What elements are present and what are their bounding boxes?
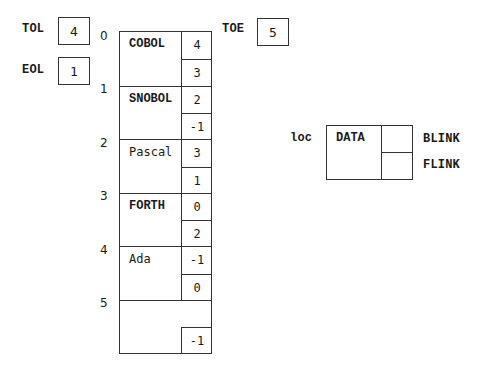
- row-flink: -1: [181, 113, 212, 140]
- row-flink: 3: [181, 59, 212, 86]
- toe-value: 5: [269, 25, 277, 40]
- toe-value-box: 5: [257, 18, 289, 46]
- linked-list-table: COBOL 4 3 SNOBOL 2 -1 Pascal 3 1 FORTH 0…: [119, 31, 212, 354]
- node-legend-box: DATA: [326, 125, 413, 180]
- blink-label: BLINK: [423, 132, 460, 146]
- tol-value: 4: [70, 24, 78, 39]
- row-blink: 2: [181, 87, 212, 114]
- row-index-4: 4: [100, 243, 108, 257]
- eol-value-box: 1: [58, 57, 90, 85]
- row-data: SNOBOL: [129, 92, 172, 106]
- row-flink: 1: [181, 167, 212, 194]
- row-index-3: 3: [100, 189, 108, 203]
- row-data: COBOL: [129, 37, 165, 51]
- eol-label: EOL: [22, 63, 44, 77]
- row-index-2: 2: [100, 136, 108, 150]
- row-index-1: 1: [100, 82, 108, 96]
- toe-label: TOE: [222, 22, 244, 36]
- row-blink: 3: [181, 140, 212, 167]
- row-data: Pascal: [129, 145, 172, 159]
- node-data-label: DATA: [336, 131, 365, 145]
- row-blink: -1: [181, 247, 212, 274]
- table-row: FORTH 0 2: [120, 193, 211, 247]
- row-blink: 0: [181, 194, 212, 221]
- row-index-0: 0: [100, 29, 108, 43]
- tol-label: TOL: [22, 22, 44, 36]
- loc-label: loc: [290, 131, 312, 145]
- tol-value-box: 4: [58, 17, 90, 45]
- row-blink: [181, 301, 212, 328]
- row-blink: 4: [181, 32, 212, 59]
- row-flink: 0: [181, 274, 212, 301]
- node-flink-cell: [381, 152, 412, 179]
- row-data: Ada: [129, 252, 151, 266]
- table-row: SNOBOL 2 -1: [120, 86, 211, 140]
- table-row: -1: [120, 300, 211, 354]
- row-flink: 2: [181, 220, 212, 247]
- node-blink-cell: [381, 126, 412, 153]
- row-data: FORTH: [129, 199, 165, 213]
- row-index-5: 5: [100, 296, 108, 310]
- row-flink: -1: [181, 327, 212, 354]
- table-row: Ada -1 0: [120, 246, 211, 300]
- table-row: Pascal 3 1: [120, 139, 211, 193]
- eol-value: 1: [70, 64, 78, 79]
- flink-label: FLINK: [423, 158, 460, 172]
- table-row: COBOL 4 3: [120, 32, 211, 86]
